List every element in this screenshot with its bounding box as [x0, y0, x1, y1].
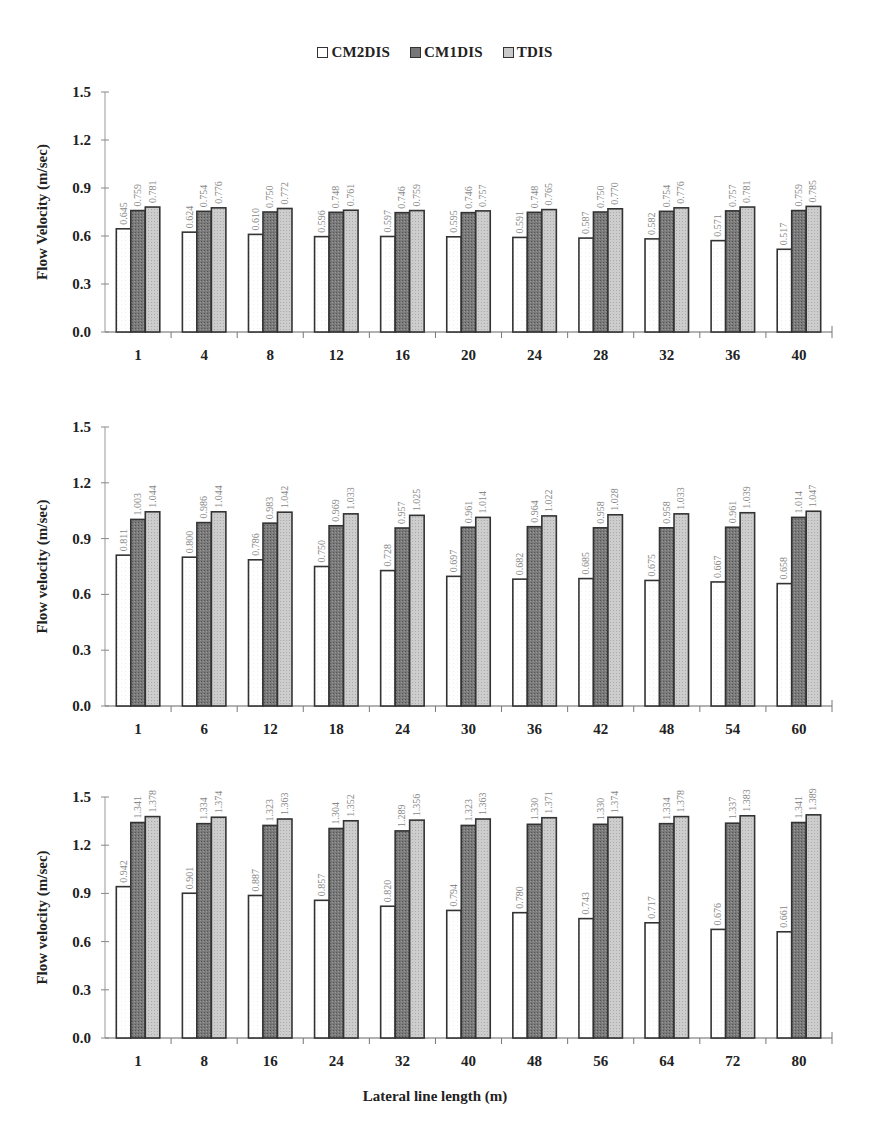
- y-axis-title: Flow Velocity (m/sec): [34, 144, 51, 280]
- bar-value-label: 1.025: [411, 489, 422, 512]
- bar-tdis: [542, 818, 557, 1038]
- y-tick-label: 0.9: [72, 180, 91, 196]
- x-tick-label: 36: [527, 721, 543, 737]
- y-tick-label: 0.9: [72, 885, 91, 901]
- bar-tdis: [740, 816, 755, 1038]
- bar-tdis: [410, 211, 425, 332]
- bar-value-label: 0.750: [316, 540, 327, 563]
- bar-value-label: 0.800: [184, 531, 195, 554]
- bar-tdis: [608, 817, 623, 1038]
- bar-cm1dis: [329, 212, 344, 332]
- x-tick-label: 6: [200, 721, 208, 737]
- bar-value-label: 0.717: [646, 896, 657, 919]
- bar-value-label: 1.047: [807, 485, 818, 508]
- y-axis-title: Flow velocity (m/sec): [34, 850, 51, 984]
- bar-value-label: 1.330: [529, 798, 540, 821]
- bar-value-label: 1.374: [213, 791, 224, 814]
- bar-cm1dis: [395, 528, 410, 706]
- bar-value-label: 0.781: [741, 181, 752, 204]
- y-tick-label: 0.3: [72, 276, 91, 292]
- bar-value-label: 0.781: [147, 181, 158, 204]
- x-tick-label: 12: [329, 347, 344, 363]
- bar-value-label: 0.761: [345, 184, 356, 207]
- bar-cm2dis: [248, 895, 263, 1038]
- bar-tdis: [608, 515, 623, 706]
- bar-tdis: [277, 512, 292, 706]
- bar-chart-3: 0.00.30.60.91.21.5Flow velocity (m/sec)0…: [0, 775, 870, 1085]
- bar-value-label: 0.582: [646, 212, 657, 235]
- legend-item-cm2dis: CM2DIS: [317, 44, 390, 61]
- bar-cm1dis: [660, 824, 675, 1038]
- bar-cm1dis: [593, 212, 608, 332]
- bar-cm2dis: [447, 910, 462, 1038]
- bar-cm1dis: [461, 213, 476, 332]
- bar-value-label: 1.378: [675, 790, 686, 813]
- bar-value-label: 0.750: [264, 186, 275, 209]
- y-tick-label: 1.2: [72, 475, 91, 491]
- x-tick-label: 60: [791, 721, 806, 737]
- bar-value-label: 1.039: [741, 486, 752, 509]
- bar-value-label: 1.014: [793, 491, 804, 514]
- bar-value-label: 0.571: [712, 214, 723, 237]
- bar-tdis: [674, 208, 689, 332]
- bar-value-label: 1.003: [132, 493, 143, 516]
- x-tick-label: 24: [395, 721, 411, 737]
- bar-cm2dis: [116, 229, 131, 332]
- bar-tdis: [740, 207, 755, 332]
- bar-tdis: [542, 210, 557, 332]
- x-tick-label: 30: [461, 721, 476, 737]
- bar-tdis: [476, 211, 491, 332]
- bar-value-label: 0.776: [675, 181, 686, 204]
- bar-value-label: 0.759: [411, 184, 422, 207]
- bar-tdis: [740, 513, 755, 706]
- legend-swatch-white-icon: [317, 47, 328, 58]
- x-tick-label: 12: [263, 721, 278, 737]
- x-tick-label: 18: [329, 721, 344, 737]
- bar-value-label: 1.014: [477, 491, 488, 514]
- bar-value-label: 0.983: [264, 497, 275, 520]
- bar-cm1dis: [197, 523, 212, 706]
- x-tick-label: 48: [527, 1053, 542, 1069]
- bar-value-label: 0.786: [250, 533, 261, 556]
- bar-cm2dis: [315, 900, 330, 1038]
- bar-cm2dis: [645, 923, 660, 1038]
- bar-value-label: 0.958: [595, 501, 606, 524]
- bar-value-label: 0.597: [382, 210, 393, 233]
- bar-cm2dis: [645, 580, 660, 706]
- bar-cm2dis: [579, 919, 594, 1038]
- bar-tdis: [211, 512, 226, 706]
- legend-item-cm1dis: CM1DIS: [410, 44, 483, 61]
- bar-value-label: 1.334: [198, 797, 209, 820]
- bar-value-label: 0.780: [514, 886, 525, 909]
- bar-cm1dis: [461, 527, 476, 706]
- x-tick-label: 40: [461, 1053, 476, 1069]
- x-tick-label: 54: [725, 721, 741, 737]
- bar-cm2dis: [447, 576, 462, 706]
- bar-value-label: 1.289: [396, 804, 407, 827]
- bar-cm1dis: [527, 212, 542, 332]
- bar-tdis: [211, 817, 226, 1038]
- bar-cm2dis: [513, 579, 528, 706]
- bar-value-label: 1.383: [741, 789, 752, 812]
- bar-value-label: 0.901: [184, 867, 195, 890]
- bar-cm2dis: [513, 237, 528, 332]
- bar-cm2dis: [579, 238, 594, 332]
- bar-value-label: 1.341: [793, 796, 804, 819]
- x-tick-label: 80: [791, 1053, 806, 1069]
- bar-cm1dis: [593, 824, 608, 1038]
- bar-value-label: 1.371: [543, 791, 554, 814]
- bar-tdis: [476, 517, 491, 706]
- bar-value-label: 0.887: [250, 869, 261, 892]
- x-tick-label: 42: [593, 721, 608, 737]
- bar-cm2dis: [711, 929, 726, 1038]
- bar-value-label: 0.957: [396, 501, 407, 524]
- bar-tdis: [674, 514, 689, 706]
- bar-value-label: 0.645: [118, 202, 129, 225]
- bar-cm1dis: [726, 823, 741, 1038]
- bar-tdis: [344, 210, 359, 332]
- bar-value-label: 0.765: [543, 183, 554, 206]
- bar-value-label: 0.746: [396, 186, 407, 209]
- legend-swatch-light-icon: [503, 47, 514, 58]
- bar-cm2dis: [711, 241, 726, 332]
- bar-value-label: 0.517: [778, 223, 789, 246]
